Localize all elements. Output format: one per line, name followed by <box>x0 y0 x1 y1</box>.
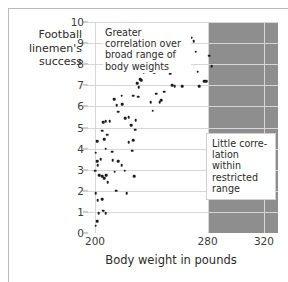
gridline-y-1 <box>88 212 278 213</box>
scatter-point <box>128 116 131 119</box>
scatter-point <box>208 54 211 57</box>
x-tick-label-320: 320 <box>254 236 274 247</box>
x-axis-tick-labels: 200280320 <box>88 236 278 252</box>
scatter-point <box>106 134 109 137</box>
scatter-point <box>131 149 134 152</box>
gridline-y-5 <box>88 128 278 129</box>
scatter-point <box>105 174 108 177</box>
scatter-point <box>160 99 163 102</box>
scatter-point <box>128 141 131 144</box>
scatter-point <box>104 120 107 123</box>
x-tick-label-280: 280 <box>198 236 218 247</box>
scatter-point <box>198 85 201 88</box>
scatter-point <box>96 160 99 163</box>
y-tick-label-3: 3 <box>62 164 84 175</box>
scatter-point <box>97 212 100 215</box>
scatter-point <box>116 104 119 107</box>
scatter-point <box>123 169 126 172</box>
scatter-point <box>113 98 116 101</box>
annotation-restricted-range: Little corre-lation within restricted ra… <box>206 133 276 200</box>
scatter-point <box>163 90 166 93</box>
scatter-point <box>130 124 133 127</box>
scatter-point <box>196 70 199 73</box>
scatter-point <box>94 192 97 195</box>
figure-frame-top-rule <box>8 8 288 9</box>
y-tick-label-6: 6 <box>62 101 84 112</box>
scatter-point <box>132 95 135 98</box>
scatter-point <box>101 198 104 201</box>
y-tick-label-1: 1 <box>62 207 84 218</box>
scatter-point <box>181 85 184 88</box>
scatter-point <box>125 192 128 195</box>
scatter-point <box>106 181 109 184</box>
y-tick-label-7: 7 <box>62 80 84 91</box>
y-axis-tick-labels: 012345678910 <box>60 22 84 233</box>
scatter-point <box>113 171 116 174</box>
y-tick-label-5: 5 <box>62 122 84 133</box>
scatter-point <box>101 129 104 132</box>
scatter-point <box>103 177 106 180</box>
scatter-point <box>149 101 152 104</box>
scatter-point <box>194 50 197 53</box>
scatter-point <box>124 117 127 120</box>
scatter-point <box>96 220 99 223</box>
scatter-point <box>103 138 106 141</box>
scatter-point <box>99 158 102 161</box>
scatter-point <box>94 224 97 227</box>
x-tick-label-200: 200 <box>85 236 105 247</box>
scatter-point <box>173 85 176 88</box>
scatter-point <box>139 78 142 81</box>
scatter-point <box>120 95 123 98</box>
scatter-point <box>97 164 100 167</box>
y-tick-label-9: 9 <box>62 38 84 49</box>
scatter-point <box>115 190 118 193</box>
scatter-point <box>192 40 195 43</box>
scatter-point <box>94 152 97 155</box>
scatter-point <box>151 109 154 112</box>
scatter-point <box>121 103 124 106</box>
y-tick-label-10: 10 <box>62 17 84 28</box>
scatter-point <box>96 140 99 143</box>
figure-container: Football linemen's success 012345678910 … <box>0 0 288 282</box>
scatter-point <box>104 212 107 215</box>
scatter-point <box>120 164 123 167</box>
scatter-point <box>111 150 114 153</box>
scatter-point <box>111 159 114 162</box>
scatter-point <box>137 96 140 99</box>
scatter-point <box>117 160 120 163</box>
y-tick-label-2: 2 <box>62 186 84 197</box>
scatter-point <box>132 139 135 142</box>
y-tick-label-4: 4 <box>62 143 84 154</box>
scatter-point <box>117 110 120 113</box>
scatter-point <box>205 80 208 83</box>
scatter-point <box>94 169 97 172</box>
x-axis-title: Body weight in pounds <box>62 254 280 267</box>
scatter-point <box>134 128 137 131</box>
scatter-point <box>135 119 138 122</box>
scatter-point <box>133 175 136 178</box>
annotation-broad-range: Greater correlation over broad range of … <box>103 26 191 73</box>
scatter-point <box>155 92 158 95</box>
scatter-point <box>137 86 140 89</box>
gridline-x-320 <box>264 22 265 233</box>
scatter-point <box>104 147 107 150</box>
scatter-point <box>109 120 112 123</box>
scatter-point <box>211 65 214 68</box>
scatter-point <box>136 82 139 85</box>
y-tick-label-8: 8 <box>62 59 84 70</box>
gridline-y-10 <box>88 22 278 23</box>
y-tick-label-0: 0 <box>62 228 84 239</box>
scatter-point <box>97 199 100 202</box>
